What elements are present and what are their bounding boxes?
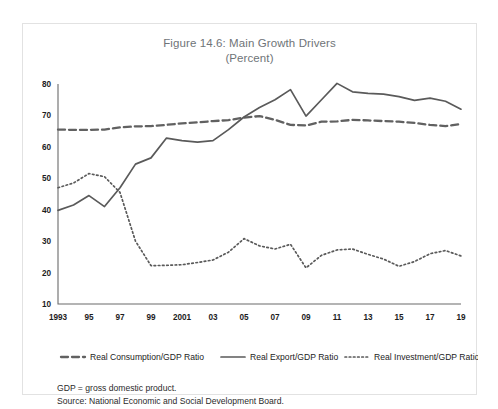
y-tick-label: 20 xyxy=(42,269,52,278)
figure-card: Figure 14.6: Main Growth Drivers (Percen… xyxy=(22,23,477,395)
x-tick-label: 19 xyxy=(456,313,466,322)
chart-series-group xyxy=(58,83,461,267)
y-tick-label: 60 xyxy=(42,143,52,152)
series-line-dotted xyxy=(58,174,461,268)
y-tick-label: 40 xyxy=(42,206,52,215)
y-tick-label: 10 xyxy=(42,300,52,309)
series-line-dashed xyxy=(58,116,461,130)
y-axis-tick-labels: 1020304050607080 xyxy=(42,80,52,309)
x-tick-label: 2001 xyxy=(173,313,192,322)
x-tick-label: 11 xyxy=(333,313,342,322)
legend-label: Real Consumption/GDP Ratio xyxy=(90,352,204,362)
growth-drivers-line-chart: 1020304050607080 19939597992001030507091… xyxy=(23,24,478,396)
footnote-definition: GDP = gross domestic product. xyxy=(57,382,284,395)
x-tick-label: 1993 xyxy=(49,313,68,322)
x-tick-label: 97 xyxy=(115,313,125,322)
x-tick-label: 05 xyxy=(239,313,249,322)
x-tick-label: 13 xyxy=(363,313,373,322)
y-tick-label: 50 xyxy=(42,174,52,183)
x-tick-label: 99 xyxy=(146,313,156,322)
series-line-solid xyxy=(58,83,461,210)
x-axis-tick-labels: 19939597992001030507091113151719 xyxy=(49,313,466,322)
legend-label: Real Investment/GDP Ratio xyxy=(374,352,478,362)
x-tick-label: 07 xyxy=(270,313,280,322)
footnote-source: Source: National Economic and Social Dev… xyxy=(57,395,284,408)
x-tick-label: 03 xyxy=(208,313,218,322)
legend-label: Real Export/GDP Ratio xyxy=(250,352,338,362)
y-tick-label: 70 xyxy=(42,111,52,120)
figure-footnotes: GDP = gross domestic product. Source: Na… xyxy=(57,382,284,407)
x-tick-label: 95 xyxy=(84,313,94,322)
chart-legend: Real Consumption/GDP RatioReal Export/GD… xyxy=(61,352,478,362)
x-tick-label: 17 xyxy=(425,313,435,322)
x-tick-label: 15 xyxy=(394,313,404,322)
y-tick-label: 30 xyxy=(42,237,52,246)
chart-plot-area: 1020304050607080 19939597992001030507091… xyxy=(23,24,478,396)
y-tick-label: 80 xyxy=(42,80,52,89)
x-tick-label: 09 xyxy=(301,313,311,322)
